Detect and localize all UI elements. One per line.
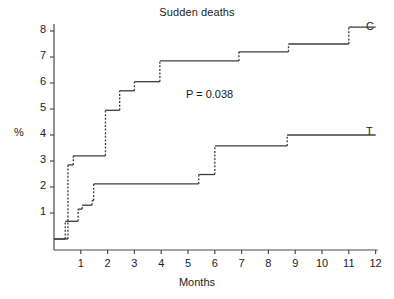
x-tick-label: 10 — [312, 257, 332, 269]
x-tick-label: 6 — [205, 257, 225, 269]
tick-layer — [50, 31, 376, 254]
y-tick-label: 2 — [32, 179, 46, 191]
x-tick-label: 9 — [285, 257, 305, 269]
x-tick-label: 5 — [178, 257, 198, 269]
y-tick-label: 7 — [32, 49, 46, 61]
y-tick-label: 6 — [32, 75, 46, 87]
series-curve-t — [54, 135, 376, 239]
y-tick-label: 8 — [32, 23, 46, 35]
x-tick-label: 7 — [232, 257, 252, 269]
y-tick-label: 5 — [32, 101, 46, 113]
y-tick-label: 4 — [32, 127, 46, 139]
y-tick-label: 1 — [32, 205, 46, 217]
plot-area — [0, 0, 394, 299]
x-tick-label: 1 — [71, 257, 91, 269]
series-curve-c — [54, 27, 376, 239]
x-tick-label: 4 — [151, 257, 171, 269]
x-tick-label: 2 — [98, 257, 118, 269]
x-tick-label: 11 — [339, 257, 359, 269]
x-tick-label: 12 — [366, 257, 386, 269]
x-tick-label: 3 — [124, 257, 144, 269]
axis-layer — [54, 24, 378, 250]
series-layer — [54, 27, 376, 239]
y-tick-label: 3 — [32, 153, 46, 165]
x-tick-label: 8 — [258, 257, 278, 269]
chart-figure: Sudden deaths % Months P = 0.038 C T 123… — [0, 0, 394, 299]
